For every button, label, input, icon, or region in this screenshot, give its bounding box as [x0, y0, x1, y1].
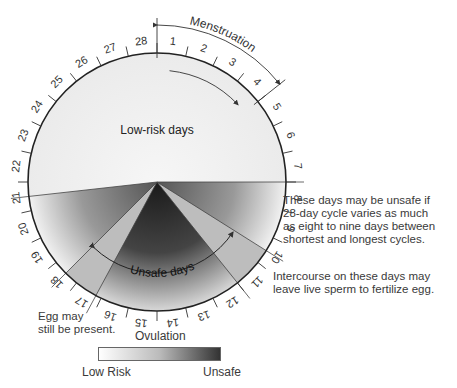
day-label: 5 [271, 101, 284, 113]
day-label: 23 [15, 127, 30, 143]
day-label: 17 [73, 294, 90, 311]
day-tick [70, 283, 76, 291]
day-label: 6 [284, 130, 297, 140]
day-tick [21, 151, 31, 153]
day-label: 1 [169, 34, 176, 47]
note-line: still be present. [38, 323, 115, 336]
day-label: 2 [199, 41, 209, 54]
legend-high-label: Unsafe [203, 366, 241, 379]
note-line: Egg may [38, 310, 115, 323]
day-tick [32, 122, 41, 126]
day-label: 20 [15, 221, 30, 237]
day-tick [32, 238, 41, 242]
legend-bar [98, 347, 221, 361]
day-tick [213, 57, 217, 66]
day-tick [273, 238, 282, 242]
day-tick [237, 73, 243, 81]
note-line: as eight to nine days between [283, 220, 435, 233]
note-line: 28-day cycle varies as much [283, 207, 435, 220]
day-tick [213, 298, 217, 307]
legend-low-label: Low Risk [82, 366, 131, 379]
day-label: 7 [292, 162, 305, 169]
day-label: 24 [28, 98, 45, 115]
day-tick [48, 262, 56, 268]
day-tick [237, 283, 243, 291]
day-label: 12 [224, 294, 241, 311]
day-tick [97, 57, 101, 66]
ovulation-label: Ovulation [135, 330, 186, 343]
day-label: 14 [166, 317, 180, 330]
day-label: 10 [269, 249, 286, 266]
day-label: 13 [196, 308, 212, 323]
low-risk-days-label: Low-risk days [120, 123, 193, 137]
day-label: 11 [249, 274, 266, 291]
day-tick [283, 151, 293, 153]
day-tick [126, 308, 128, 318]
day-tick [21, 211, 31, 213]
note-line: These days may be unsafe if [283, 194, 435, 207]
day-tick [186, 308, 188, 318]
day-tick [126, 46, 128, 56]
note-line: leave live sperm to fertilize egg. [273, 283, 434, 296]
note-line: Intercourse on these days may [273, 270, 434, 283]
day-tick [273, 122, 282, 126]
variable-cycle-note: These days may be unsafe if 28-day cycle… [283, 194, 435, 246]
day-label: 28 [134, 34, 148, 47]
day-label: 3 [227, 55, 239, 68]
day-label: 21 [9, 191, 22, 205]
sperm-note: Intercourse on these days may leave live… [273, 270, 434, 296]
day-tick [258, 262, 266, 268]
day-tick [186, 46, 188, 56]
day-label: 26 [73, 53, 90, 70]
day-label: 15 [134, 317, 148, 330]
day-label: 4 [251, 75, 264, 88]
day-label: 19 [28, 249, 45, 266]
day-label: 22 [9, 159, 22, 173]
day-label: 25 [48, 73, 65, 90]
day-label: 27 [102, 40, 118, 55]
menstruation-label: Menstruation [189, 13, 259, 54]
day-tick [70, 73, 76, 81]
egg-note: Egg may still be present. [38, 310, 115, 336]
day-tick [97, 298, 101, 307]
note-line: shortest and longest cycles. [283, 233, 435, 246]
day-tick [48, 95, 56, 101]
